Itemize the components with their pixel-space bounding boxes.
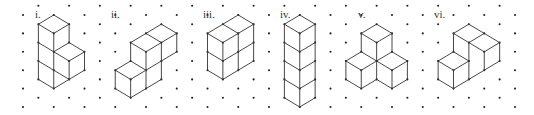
cube-edge [38, 24, 53, 33]
cube-edge [38, 79, 53, 88]
grid-dot [422, 32, 424, 34]
grid-dot [176, 88, 178, 90]
cube-edge [54, 70, 69, 79]
cube-edge [392, 61, 407, 70]
grid-dot [268, 88, 270, 90]
grid-dot [483, 106, 485, 108]
grid-dot [253, 78, 255, 80]
cube-edge [377, 24, 392, 33]
cube-figure-3 [208, 15, 254, 79]
grid-dot [114, 32, 116, 34]
grid-dot [145, 106, 147, 108]
grid-dot [145, 14, 147, 16]
cube-edge [208, 24, 223, 33]
grid-dot [130, 23, 132, 25]
cube-figure-2 [115, 24, 177, 98]
grid-dot [345, 23, 347, 25]
grid-dot [376, 97, 378, 99]
grid-dot [99, 23, 101, 25]
grid-dot [191, 23, 193, 25]
grid-dot [345, 97, 347, 99]
figure-label-i: i. [35, 9, 41, 20]
grid-dot [437, 97, 439, 99]
grid-dot [22, 51, 24, 53]
grid-dot [468, 5, 470, 7]
cube-edge [54, 15, 69, 24]
figure-label-iii: iii. [203, 9, 215, 20]
grid-dot [191, 97, 193, 99]
cube-edge [454, 52, 469, 61]
grid-dot [191, 42, 193, 44]
grid-dot [452, 14, 454, 16]
cube-figure-6 [438, 24, 500, 88]
grid-dot [437, 42, 439, 44]
cube-edge [361, 33, 376, 42]
cube-edge [469, 24, 484, 33]
grid-dot [499, 78, 501, 80]
grid-dot [68, 5, 70, 7]
cube-edge [284, 61, 299, 70]
cube-edge [208, 52, 223, 61]
cube-edge [300, 61, 315, 70]
grid-dot [83, 106, 85, 108]
grid-dot [376, 5, 378, 7]
cube-edge [38, 61, 53, 70]
cube-edge [469, 33, 484, 42]
cube-edge [161, 52, 176, 61]
figure-label-iv: iv. [280, 9, 291, 20]
cube-edge [300, 79, 315, 88]
cube-edge [131, 61, 146, 70]
grid-dot [222, 5, 224, 7]
grid-dot [206, 106, 208, 108]
grid-dot [22, 14, 24, 16]
grid-dot [514, 88, 516, 90]
grid-dot [191, 60, 193, 62]
cube-edge [223, 70, 238, 79]
cube-edge [38, 43, 53, 52]
grid-dot [222, 97, 224, 99]
figure-label-ii: ii. [111, 9, 120, 20]
cube-edge [161, 24, 176, 33]
grid-dot [437, 5, 439, 7]
grid-dot [329, 14, 331, 16]
grid-dot [329, 32, 331, 34]
grid-dot [268, 106, 270, 108]
cube-edge [361, 61, 376, 70]
cube-edge [361, 79, 376, 88]
cube-edge [300, 24, 315, 33]
cube-edge [284, 98, 299, 107]
cube-edge [238, 24, 253, 33]
cube-edge [377, 61, 392, 70]
cube-edge [238, 61, 253, 70]
cube-edge [115, 89, 130, 98]
cube-edge [392, 79, 407, 88]
cube-edge [454, 33, 469, 42]
grid-dot [391, 14, 393, 16]
cube-edge [377, 52, 392, 61]
grid-dot [99, 60, 101, 62]
cube-figure-5 [346, 24, 408, 88]
cube-edge [146, 24, 161, 33]
grid-dot [83, 32, 85, 34]
cube-edge [223, 15, 238, 24]
cube-edge [484, 43, 499, 52]
cube-edge [146, 33, 161, 42]
cube-edge [146, 61, 161, 70]
cube-edge [377, 33, 392, 42]
grid-dot [22, 88, 24, 90]
grid-dot [130, 5, 132, 7]
cube-edge [131, 43, 146, 52]
cube-edge [454, 61, 469, 70]
grid-dot [191, 78, 193, 80]
cube-edge [223, 24, 238, 33]
grid-dot [114, 106, 116, 108]
grid-dot [422, 69, 424, 71]
grid-dot [422, 106, 424, 108]
grid-dot [422, 88, 424, 90]
grid-dot [237, 106, 239, 108]
isometric-dot-paper [0, 0, 534, 115]
grid-dot [68, 97, 70, 99]
grid-dot [514, 32, 516, 34]
grid-dot [99, 97, 101, 99]
cube-edge [223, 52, 238, 61]
